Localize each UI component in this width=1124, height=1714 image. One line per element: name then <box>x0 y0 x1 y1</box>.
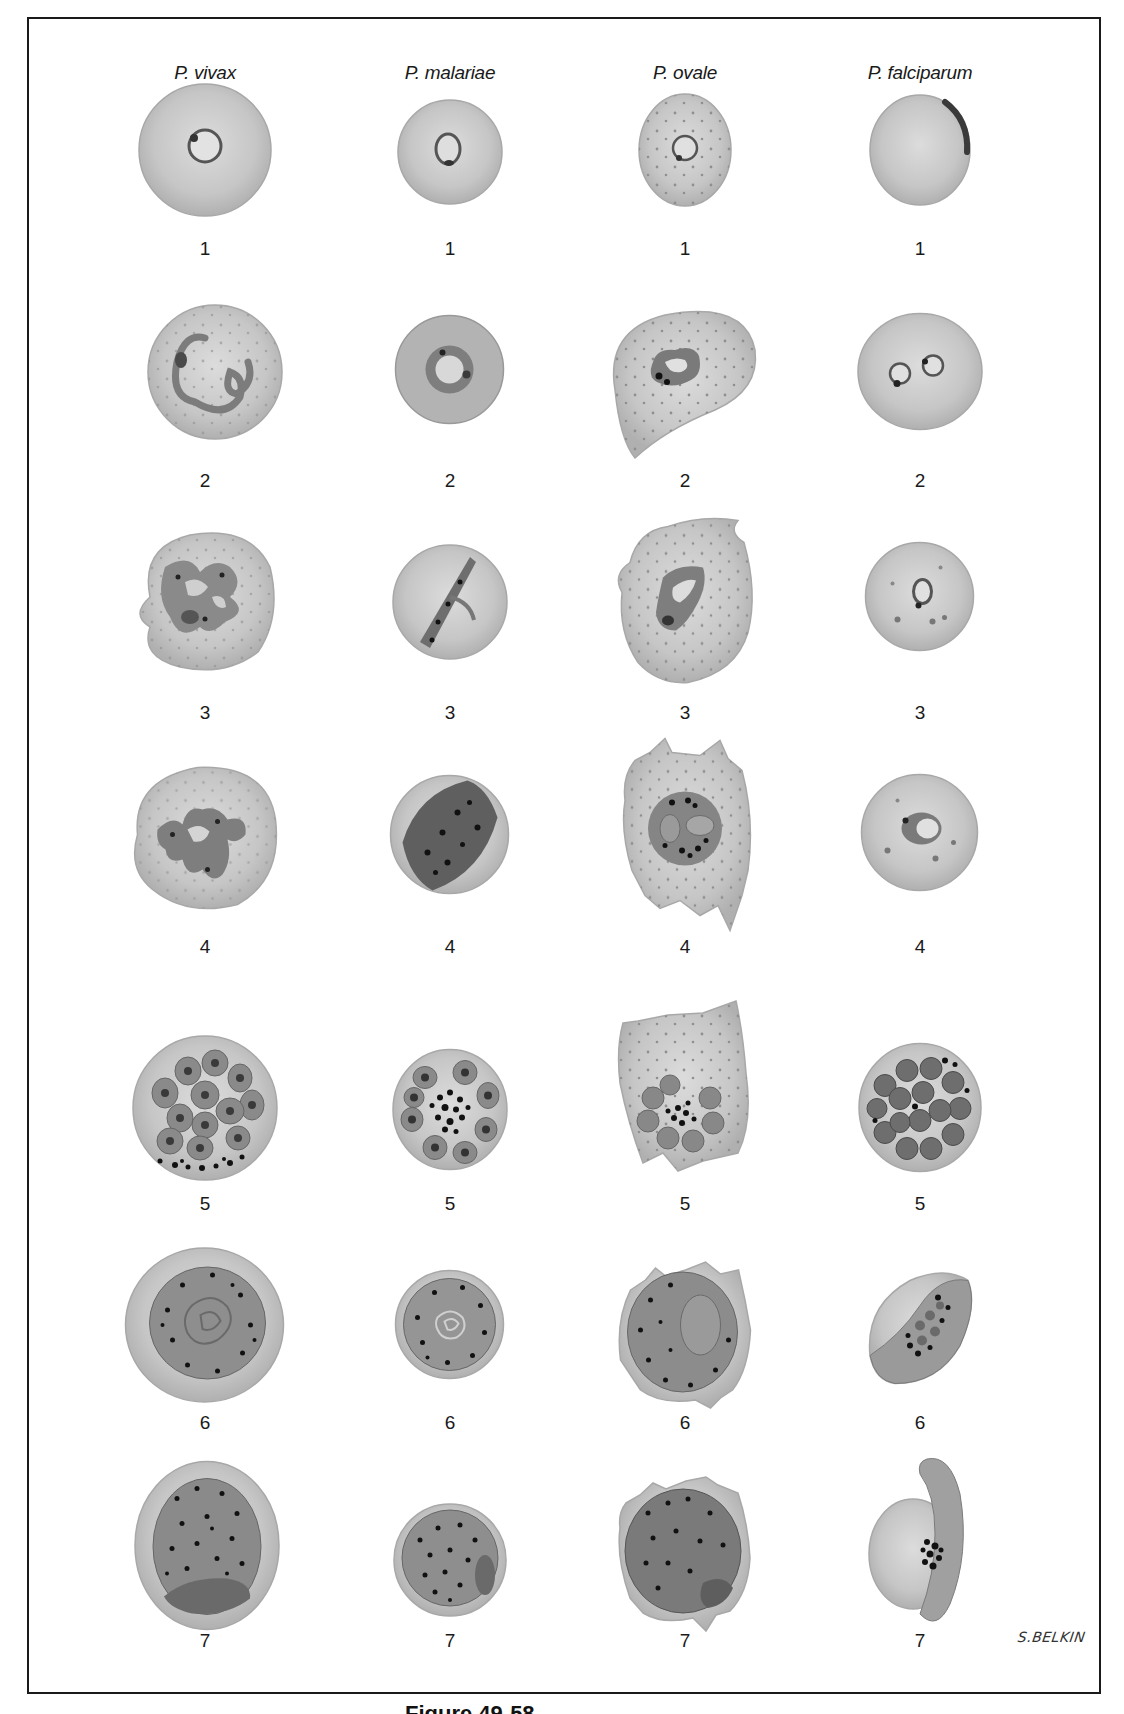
cell-falciparum-stage-1-accole <box>865 90 975 210</box>
stage-label: 3 <box>900 702 940 724</box>
cell-malariae-stage-3-band <box>390 542 510 662</box>
cell-ovale-stage-7-gametocyte <box>608 1463 758 1633</box>
cell-ovale-stage-3-trophozoite <box>608 513 758 688</box>
column-header-p-ovale: P. ovale <box>575 62 795 84</box>
cell-malariae-stage-2-ring <box>393 313 508 428</box>
cell-malariae-stage-6-microgametocyte <box>393 1268 508 1383</box>
column-header-p-falciparum: P. falciparum <box>810 62 1030 84</box>
cell-vivax-stage-4-trophozoite <box>128 760 283 915</box>
cell-ovale-stage-6-gametocyte <box>611 1250 756 1410</box>
cell-vivax-stage-7-microgametocyte <box>132 1459 282 1634</box>
cell-falciparum-stage-6-crescent-gametocyte <box>860 1266 980 1391</box>
stage-label: 2 <box>430 470 470 492</box>
cell-ovale-stage-4-trophozoite <box>610 731 760 946</box>
stage-label: 3 <box>185 702 225 724</box>
cell-vivax-stage-3-trophozoite <box>130 527 280 677</box>
stage-label: 7 <box>430 1630 470 1652</box>
cell-ovale-stage-1-ring <box>635 90 735 210</box>
stage-label: 2 <box>900 470 940 492</box>
stage-label: 4 <box>900 936 940 958</box>
stage-label: 1 <box>185 238 225 260</box>
stage-label: 7 <box>665 1630 705 1652</box>
cell-falciparum-stage-5-schizont <box>855 1041 985 1176</box>
cell-vivax-stage-6-macrogametocyte <box>123 1245 288 1405</box>
stage-label: 6 <box>665 1412 705 1434</box>
stage-label: 4 <box>185 936 225 958</box>
cell-malariae-stage-1-ring <box>395 97 505 207</box>
column-header-p-malariae: P. malariae <box>340 62 560 84</box>
stage-label: 6 <box>430 1412 470 1434</box>
stage-label: 2 <box>665 470 705 492</box>
cell-falciparum-stage-2-double-ring <box>855 310 985 435</box>
artist-signature: S.BELKIN <box>1017 1629 1087 1645</box>
stage-label: 2 <box>185 470 225 492</box>
cell-vivax-stage-2-amoeboid <box>145 302 285 442</box>
cell-vivax-stage-5-schizont <box>130 1033 280 1183</box>
stage-label: 6 <box>185 1412 225 1434</box>
cell-vivax-stage-1-ring <box>135 80 275 220</box>
stage-label: 6 <box>900 1412 940 1434</box>
cell-malariae-stage-4-band <box>388 773 513 898</box>
cell-falciparum-stage-4-trophozoite <box>858 771 983 896</box>
cell-ovale-stage-2-ring <box>595 300 765 460</box>
stage-label: 4 <box>430 936 470 958</box>
stage-label: 3 <box>430 702 470 724</box>
stage-label: 1 <box>430 238 470 260</box>
stage-label: 5 <box>900 1193 940 1215</box>
cell-malariae-stage-5-schizont-rosette <box>390 1048 510 1173</box>
cell-malariae-stage-7-gametocyte <box>390 1500 510 1620</box>
stage-label: 5 <box>430 1193 470 1215</box>
cell-falciparum-stage-3-ring-maurer <box>863 540 978 655</box>
stage-label: 7 <box>185 1630 225 1652</box>
stage-label: 3 <box>665 702 705 724</box>
stage-label: 1 <box>900 238 940 260</box>
stage-label: 5 <box>665 1193 705 1215</box>
stage-label: 5 <box>185 1193 225 1215</box>
stage-label: 7 <box>900 1630 940 1652</box>
stage-label: 4 <box>665 936 705 958</box>
figure-caption: Figure 49-58 <box>405 1701 535 1714</box>
stage-label: 1 <box>665 238 705 260</box>
cell-falciparum-stage-7-crescent-gametocyte <box>865 1454 975 1634</box>
cell-ovale-stage-5-schizont <box>608 993 758 1183</box>
